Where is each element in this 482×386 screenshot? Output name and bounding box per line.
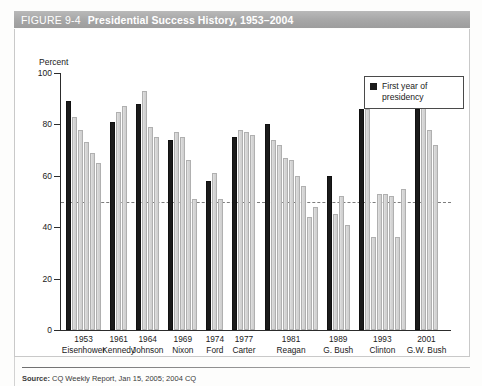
- bar-first-year: [327, 176, 332, 330]
- figure-header: FIGURE 9-4 Presidential Success History,…: [14, 11, 470, 28]
- x-axis-label-kennedy: 1961Kennedy: [102, 334, 135, 355]
- x-axis-label-reagan: 1981Reagan: [277, 334, 306, 355]
- bar-subsequent-year: [154, 137, 159, 330]
- bar-first-year: [415, 109, 420, 330]
- bar-subsequent-year: [271, 140, 276, 330]
- y-tick-label: 80: [18, 119, 56, 129]
- y-tick-label: 100: [18, 68, 56, 78]
- bar-subsequent-year: [345, 225, 350, 330]
- x-label-president: Johnson: [132, 345, 163, 356]
- bar-first-year: [232, 137, 237, 330]
- x-label-year: 1964: [132, 334, 163, 345]
- x-label-year: 1969: [172, 334, 193, 345]
- bar-subsequent-year: [283, 158, 288, 330]
- bar-subsequent-year: [295, 176, 300, 330]
- bar-subsequent-year: [421, 106, 426, 330]
- bar-first-year: [110, 122, 115, 330]
- bar-subsequent-year: [433, 145, 438, 330]
- bar-subsequent-year: [212, 173, 217, 330]
- bar-subsequent-year: [333, 214, 338, 330]
- plot-area: [60, 73, 450, 330]
- x-label-president: G.W. Bush: [407, 345, 447, 356]
- bar-subsequent-year: [401, 189, 406, 330]
- bar-subsequent-year: [96, 163, 101, 330]
- x-label-year: 2001: [407, 334, 447, 345]
- bar-subsequent-year: [142, 91, 147, 330]
- x-axis-label-johnson: 1964Johnson: [132, 334, 163, 355]
- x-label-president: Eisenhower: [62, 345, 105, 356]
- bar-subsequent-year: [116, 112, 121, 330]
- bar-group-ford: [206, 73, 223, 330]
- x-label-president: Carter: [232, 345, 255, 356]
- bar-subsequent-year: [238, 130, 243, 330]
- panel-left-rule: [14, 357, 15, 386]
- bar-subsequent-year: [377, 194, 382, 330]
- x-axis-line: [60, 330, 451, 331]
- bar-subsequent-year: [84, 142, 89, 330]
- bar-subsequent-year: [174, 132, 179, 330]
- source-divider: [22, 367, 470, 368]
- y-tick-label: 40: [18, 222, 56, 232]
- source-text: CQ Weekly Report, Jan 15, 2005; 2004 CQ: [52, 374, 196, 383]
- bar-subsequent-year: [277, 145, 282, 330]
- bar-subsequent-year: [250, 135, 255, 330]
- y-tick-label: 0: [18, 325, 56, 335]
- bar-subsequent-year: [78, 130, 83, 330]
- bar-subsequent-year: [365, 109, 370, 330]
- bar-group-g-bush: [327, 73, 350, 330]
- x-label-president: Clinton: [369, 345, 395, 356]
- bar-subsequent-year: [371, 237, 376, 330]
- source-prefix: Source:: [22, 374, 50, 383]
- y-tick-label: 60: [18, 171, 56, 181]
- bar-subsequent-year: [244, 132, 249, 330]
- x-label-year: 1989: [323, 334, 353, 345]
- x-label-year: 1977: [232, 334, 255, 345]
- figure-number: FIGURE 9-4: [14, 14, 88, 26]
- x-label-president: G. Bush: [323, 345, 353, 356]
- x-label-year: 1974: [206, 334, 224, 345]
- y-tick-label: 20: [18, 274, 56, 284]
- x-label-president: Nixon: [172, 345, 193, 356]
- bar-group-johnson: [136, 73, 159, 330]
- figure-title: Presidential Success History, 1953–2004: [88, 14, 294, 26]
- bar-subsequent-year: [192, 199, 197, 330]
- x-axis-label-nixon: 1969Nixon: [172, 334, 193, 355]
- bar-subsequent-year: [90, 153, 95, 330]
- bar-first-year: [66, 101, 71, 330]
- bar-subsequent-year: [122, 106, 127, 330]
- bar-subsequent-year: [339, 196, 344, 330]
- legend-swatch-icon: [370, 83, 377, 90]
- bar-subsequent-year: [389, 196, 394, 330]
- bar-subsequent-year: [180, 137, 185, 330]
- x-axis-label-ford: 1974Ford: [206, 334, 224, 355]
- x-axis-label-clinton: 1993Clinton: [369, 334, 395, 355]
- x-axis-label-carter: 1977Carter: [232, 334, 255, 355]
- bar-group-nixon: [168, 73, 197, 330]
- legend-label: First year of presidency: [382, 81, 458, 103]
- y-axis-label: Percent: [39, 57, 68, 67]
- chart-legend: First year of presidency: [364, 76, 464, 109]
- x-label-president: Ford: [206, 345, 224, 356]
- bar-subsequent-year: [72, 117, 77, 330]
- x-label-year: 1961: [102, 334, 135, 345]
- figure-container: FIGURE 9-4 Presidential Success History,…: [0, 0, 482, 386]
- bar-subsequent-year: [301, 186, 306, 330]
- x-axis-label-eisenhower: 1953Eisenhower: [62, 334, 105, 355]
- bar-subsequent-year: [148, 127, 153, 330]
- bar-subsequent-year: [218, 199, 223, 330]
- bar-subsequent-year: [186, 160, 191, 330]
- x-axis-label-g-bush: 1989G. Bush: [323, 334, 353, 355]
- x-axis-label-g-w-bush: 2001G.W. Bush: [407, 334, 447, 355]
- bar-group-clinton: [359, 73, 406, 330]
- bar-first-year: [168, 140, 173, 330]
- bar-group-carter: [232, 73, 255, 330]
- bar-subsequent-year: [307, 217, 312, 330]
- chart-panel: Percent 020406080100 1953Eisenhower1961K…: [14, 29, 470, 357]
- bar-subsequent-year: [383, 194, 388, 330]
- bar-group-reagan: [265, 73, 318, 330]
- bar-group-eisenhower: [66, 73, 101, 330]
- bar-subsequent-year: [427, 130, 432, 330]
- source-note: Source: CQ Weekly Report, Jan 15, 2005; …: [22, 374, 196, 383]
- x-label-president: Reagan: [277, 345, 306, 356]
- bar-first-year: [136, 104, 141, 330]
